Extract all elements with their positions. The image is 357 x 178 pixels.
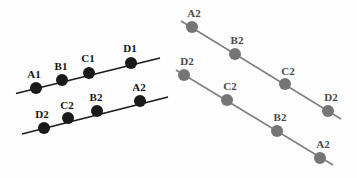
node-label: B2 [231,35,244,46]
node-label: D1 [123,43,136,54]
node-dot[interactable] [271,125,283,137]
node-label: A2 [316,139,329,150]
node-dot[interactable] [91,105,103,117]
node-label: C2 [223,81,236,92]
node-dot[interactable] [125,57,137,69]
node-dot[interactable] [221,94,233,106]
diagram-canvas: A1B1C1D1D2C2B2A2A2B2C2D2D2C2B2A2 [0,0,357,178]
node-dot[interactable] [279,78,291,90]
right-lower-line [176,69,333,165]
node-dot[interactable] [178,69,190,81]
right-lower-line-segment [176,70,333,165]
node-label: B1 [55,61,68,72]
node-label: D2 [324,92,337,103]
node-dot[interactable] [30,82,42,94]
node-dot[interactable] [56,74,68,86]
right-upper-line [181,21,341,119]
node-dot[interactable] [322,105,334,117]
node-dot[interactable] [38,122,50,134]
node-label: B2 [90,92,103,103]
node-dot[interactable] [62,112,74,124]
node-label: C2 [60,100,73,111]
node-label: C2 [281,66,294,77]
node-dot[interactable] [314,152,326,164]
node-label: D2 [180,56,193,67]
node-label: A2 [187,8,200,19]
diagram-svg [0,0,357,178]
node-label: D2 [35,109,48,120]
node-label: A2 [132,82,145,93]
node-dot[interactable] [83,67,95,79]
node-dot[interactable] [186,21,198,33]
right-upper-line-segment [181,21,341,119]
node-label: B2 [274,112,287,123]
node-label: C1 [81,53,94,64]
node-dot[interactable] [229,48,241,60]
node-label: A1 [27,69,40,80]
node-dot[interactable] [134,95,146,107]
